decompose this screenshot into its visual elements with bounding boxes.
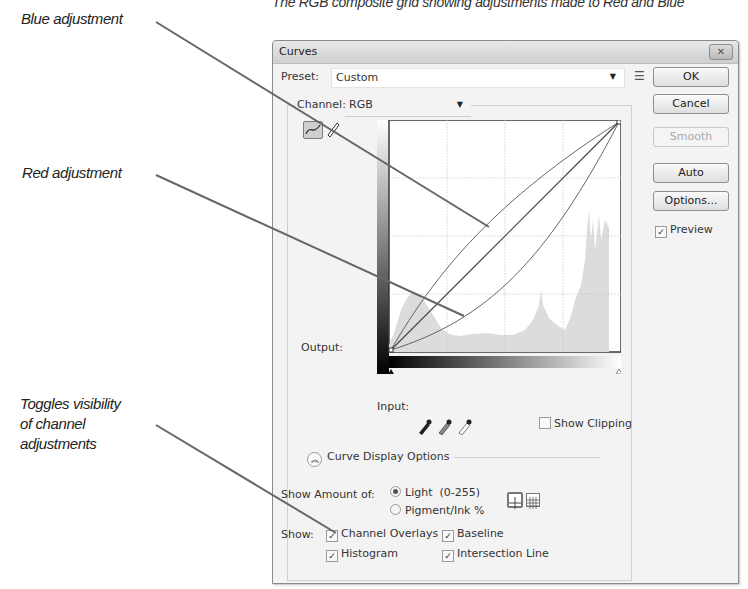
pencil-tool-icon (325, 120, 341, 138)
annotation-red-adjustment: Red adjustment (22, 163, 121, 183)
checkbox-icon (326, 530, 338, 542)
annotation-blue-adjustment: Blue adjustment (21, 9, 123, 29)
show-label: Show: (281, 528, 314, 541)
white-point-slider[interactable] (616, 369, 621, 374)
annotation-toggle-visibility: Toggles visibility of channel adjustment… (20, 394, 121, 454)
radio-icon (390, 486, 401, 497)
light-radio-label: Light (0-255) (405, 486, 480, 499)
histogram-checkbox[interactable]: Histogram (326, 547, 398, 562)
channel-overlays-label: Channel Overlays (341, 527, 438, 540)
divider (287, 105, 295, 106)
show-clipping-label: Show Clipping (554, 417, 632, 430)
collapse-icon: ︽ (307, 452, 322, 467)
smooth-button[interactable]: Smooth (653, 127, 729, 147)
divider (471, 105, 631, 106)
light-radio[interactable]: Light (0-255) (390, 486, 480, 499)
intersection-line-label: Intersection Line (457, 547, 549, 560)
channel-dropdown[interactable]: RGB ▼ (345, 98, 465, 112)
channel-value: RGB (349, 98, 373, 111)
checkbox-icon (655, 226, 667, 238)
detailed-grid-icon (527, 497, 539, 509)
chevron-down-icon: ▼ (457, 100, 463, 109)
figure-caption: The RGB composite grid showing adjustmen… (272, 0, 748, 10)
curves-dialog: Curves ✕ Preset: Custom ▼ ☰ OK Cancel Sm… (272, 40, 739, 584)
cancel-button[interactable]: Cancel (653, 94, 729, 114)
channel-label: Channel: (297, 98, 346, 111)
checkbox-icon (326, 550, 338, 562)
preset-dropdown[interactable]: Custom ▼ (331, 68, 625, 88)
detailed-grid-button[interactable] (526, 493, 540, 507)
chevron-down-icon: ▼ (610, 72, 616, 81)
checkbox-icon (442, 550, 454, 562)
curve-endpoint[interactable] (389, 348, 393, 352)
preview-checkbox[interactable]: Preview (655, 223, 713, 238)
annotation-line: adjustments (20, 434, 121, 454)
histogram-label: Histogram (341, 547, 398, 560)
curve-endpoint[interactable] (617, 120, 621, 124)
input-gradient-bar (389, 356, 621, 368)
radio-icon (390, 504, 401, 515)
curves-graph[interactable] (377, 120, 621, 374)
simple-grid-button[interactable] (507, 492, 523, 508)
output-label: Output: (301, 341, 343, 354)
baseline-label: Baseline (457, 527, 504, 540)
output-gradient-bar (377, 120, 389, 374)
curve-point-tool-icon (304, 122, 322, 138)
pigment-radio[interactable]: Pigment/Ink % (390, 504, 484, 517)
pencil-tool-button[interactable] (325, 120, 341, 138)
close-button[interactable]: ✕ (709, 44, 733, 60)
close-icon: ✕ (717, 46, 725, 57)
curve-display-options-toggle[interactable]: ︽Curve Display Options (307, 450, 449, 467)
gray-point-eyedropper-icon[interactable] (439, 420, 452, 436)
auto-button[interactable]: Auto (653, 163, 729, 183)
white-point-eyedropper-icon[interactable] (459, 420, 472, 436)
black-point-eyedropper-icon[interactable] (419, 420, 432, 436)
input-label: Input: (377, 400, 409, 413)
annotation-line: Toggles visibility (20, 394, 121, 414)
options-button[interactable]: Options... (653, 191, 729, 211)
preset-label: Preset: (281, 70, 319, 83)
divider (345, 116, 471, 117)
preview-label: Preview (670, 223, 713, 236)
show-clipping-checkbox[interactable]: Show Clipping (539, 417, 632, 430)
dialog-title: Curves (279, 45, 317, 58)
preset-value: Custom (336, 71, 378, 84)
baseline-checkbox[interactable]: Baseline (442, 527, 504, 542)
ok-button[interactable]: OK (653, 67, 729, 87)
checkbox-icon (442, 530, 454, 542)
show-amount-label: Show Amount of: (281, 488, 375, 501)
channel-overlays-checkbox[interactable]: Channel Overlays (326, 527, 438, 542)
intersection-line-checkbox[interactable]: Intersection Line (442, 547, 549, 562)
preset-options-icon[interactable]: ☰ (634, 69, 645, 83)
title-bar[interactable]: Curves ✕ (273, 41, 738, 64)
curve-display-options-label: Curve Display Options (327, 450, 449, 463)
curve-point-tool-button[interactable] (303, 121, 323, 139)
pigment-radio-label: Pigment/Ink % (405, 504, 484, 517)
checkbox-icon (539, 417, 551, 429)
divider (454, 457, 600, 458)
simple-grid-icon (509, 497, 521, 509)
eyedropper-group (417, 417, 477, 435)
annotation-line: of channel (20, 414, 121, 434)
